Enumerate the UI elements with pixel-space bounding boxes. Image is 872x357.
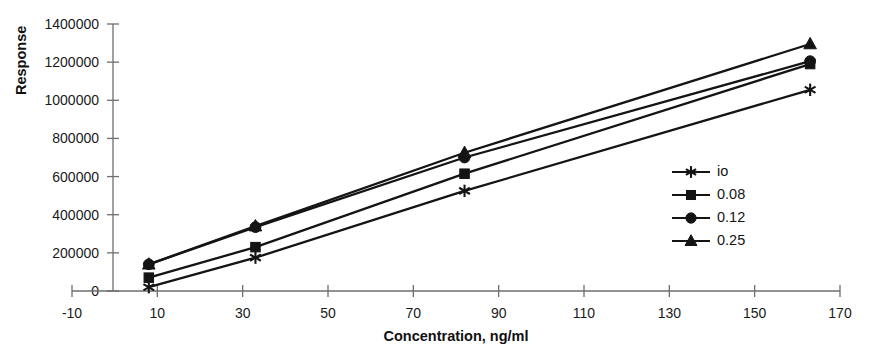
legend-item-0-08[interactable]: 0.08 [672,186,745,202]
data-point-marker-circle [686,213,696,223]
legend-label: 0.08 [717,186,745,202]
data-point-marker-square [460,169,470,179]
series-0-12 [143,56,815,270]
x-tick-label: -10 [62,305,82,321]
chart-legend: io0.080.120.25 [672,163,745,248]
y-tick-label: 1200000 [44,54,99,70]
y-tick-label: 1000000 [44,92,99,108]
x-tick-label: 90 [491,305,507,321]
data-point-marker-triangle [804,37,817,48]
x-tick-label: 170 [828,305,852,321]
x-tick-label: 30 [235,305,251,321]
x-tick-label: 50 [320,305,336,321]
legend-item-io[interactable]: io [672,163,728,179]
legend-label: 0.12 [717,209,745,225]
y-tick-label: 800000 [52,130,99,146]
legend-item-0-12[interactable]: 0.12 [672,209,745,225]
y-axis-group: 0200000400000600000800000100000012000001… [13,16,119,299]
x-tick-label: 10 [150,305,166,321]
y-axis-tick-labels: 0200000400000600000800000100000012000001… [44,16,99,299]
x-tick-label: 150 [743,305,767,321]
data-point-marker-circle [805,56,816,67]
chart-container: 0200000400000600000800000100000012000001… [0,0,872,357]
y-tick-label: 600000 [52,169,99,185]
y-tick-label: 400000 [52,207,99,223]
x-axis-tick-labels: -101030507090110130150170 [62,305,852,321]
legend-item-0-25[interactable]: 0.25 [672,232,745,248]
data-point-marker-square [251,242,261,252]
legend-label: io [717,163,728,179]
y-axis-title: Response [13,26,29,95]
y-tick-label: 200000 [52,245,99,261]
data-series-layer [143,37,817,293]
series-io [143,84,815,294]
series-line-io [149,90,810,287]
series-line-0-12 [149,61,810,264]
legend-label: 0.25 [717,232,745,248]
y-tick-label: 1400000 [44,16,99,32]
x-tick-label: 130 [658,305,682,321]
line-chart-plot: 0200000400000600000800000100000012000001… [0,0,872,357]
data-point-marker-square [144,273,154,283]
data-point-marker-square [686,190,695,199]
x-tick-label: 70 [406,305,422,321]
x-axis-group: -101030507090110130150170 Concentration,… [62,285,852,344]
series-line-0-08 [149,64,810,278]
x-tick-label: 110 [573,305,596,321]
series-0-08 [144,59,815,282]
x-axis-title: Concentration, ng/ml [384,328,529,344]
